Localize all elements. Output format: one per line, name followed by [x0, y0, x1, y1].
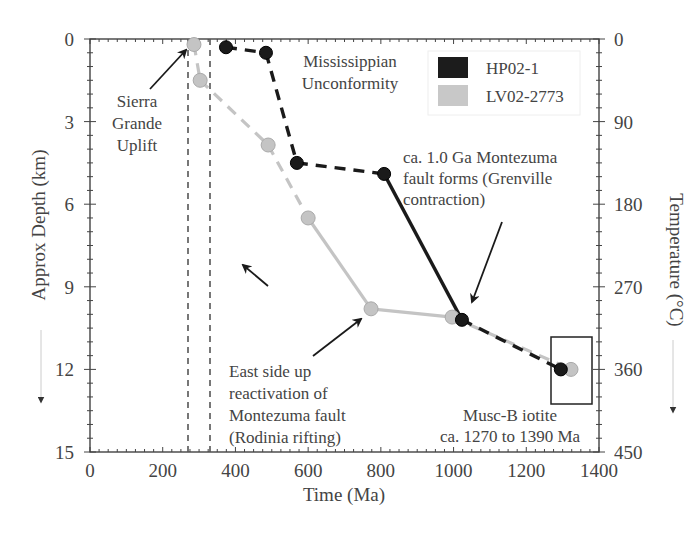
series-segment [371, 309, 452, 317]
data-point [554, 363, 567, 376]
x-tick-label: 0 [85, 460, 95, 481]
x-axis-title: Time (Ma) [303, 484, 385, 506]
exhumation-arrow [243, 265, 268, 286]
y2-tick-label: 90 [614, 112, 633, 133]
chart-root: 03691215 090180270360450 020040060080010… [0, 0, 700, 549]
data-point [193, 73, 207, 87]
reference-lines [188, 39, 210, 452]
legend-swatch-hp02-1 [438, 57, 468, 78]
x-tick-labels: 0200400600800100012001400 [85, 460, 618, 481]
annotation-sierra-grande: Sierra Grande Uplift [112, 92, 162, 155]
legend-swatch-lv02-2773 [438, 85, 468, 106]
data-point [455, 313, 468, 326]
data-point [261, 138, 275, 152]
grenville-arrow [472, 222, 502, 302]
y-tick-label: 0 [65, 29, 75, 50]
y2-tick-label: 180 [614, 194, 643, 215]
data-point [259, 46, 272, 59]
series-segment [200, 80, 268, 145]
x-tick-label: 600 [294, 460, 323, 481]
east-side-up-arrow [313, 319, 361, 356]
y-tick-label: 12 [55, 359, 74, 380]
svg-text:ca. 1.0 Ga Montezuma: ca. 1.0 Ga Montezuma [403, 148, 558, 167]
legend-label-hp02-1: HP02-1 [486, 59, 539, 78]
x-tick-label: 400 [221, 460, 250, 481]
y2-tick-labels: 090180270360450 [614, 29, 643, 463]
series-segment [268, 145, 308, 218]
y-tick-label: 9 [65, 277, 75, 298]
svg-text:Sierra: Sierra [117, 92, 158, 111]
y-tick-label: 3 [65, 112, 75, 133]
data-point [364, 302, 378, 316]
y-tick-label: 6 [65, 194, 75, 215]
data-point [219, 41, 232, 54]
data-point [187, 38, 201, 52]
x-tick-label: 1200 [507, 460, 545, 481]
series-segment [297, 163, 384, 174]
annotation-grenville: ca. 1.0 Ga Montezuma fault forms (Grenvi… [403, 148, 558, 209]
series-segment [308, 218, 371, 309]
legend-label-lv02-2773: LV02-2773 [486, 87, 564, 106]
svg-text:reactivation of: reactivation of [229, 384, 328, 403]
y2-axis-title: Temperature (°C) [665, 193, 687, 326]
data-point [301, 211, 315, 225]
svg-text:ca. 1270 to 1390 Ma: ca. 1270 to 1390 Ma [440, 427, 581, 446]
y-tick-labels: 03691215 [55, 29, 74, 463]
svg-text:Montezuma fault: Montezuma fault [229, 406, 346, 425]
annotation-mississippian: Mississippian Unconformity [302, 52, 399, 93]
y2-tick-label: 270 [614, 277, 643, 298]
svg-text:Mississippian: Mississippian [303, 52, 397, 71]
annotation-musc-biotite: Musc-B iotite ca. 1270 to 1390 Ma [440, 406, 581, 446]
legend: HP02-1 LV02-2773 [428, 51, 580, 115]
x-tick-label: 200 [148, 460, 177, 481]
y-tick-label: 15 [55, 442, 74, 463]
svg-text:contraction): contraction) [403, 190, 485, 209]
y-axis-title: Approx Depth (km) [28, 150, 50, 301]
x-tick-label: 800 [367, 460, 396, 481]
svg-text:fault forms (Grenville: fault forms (Grenville [403, 169, 552, 188]
x-tick-label: 1400 [580, 460, 618, 481]
y2-tick-label: 360 [614, 359, 643, 380]
svg-text:Grande: Grande [112, 114, 162, 133]
y2-tick-label: 0 [614, 29, 624, 50]
svg-text:Unconformity: Unconformity [302, 74, 399, 93]
y2-tick-label: 450 [614, 442, 643, 463]
data-point [290, 156, 303, 169]
svg-text:East side up: East side up [229, 362, 311, 381]
sierra-grande-arrow [150, 50, 186, 89]
svg-text:(Rodinia rifting): (Rodinia rifting) [229, 428, 341, 447]
svg-text:Musc-B iotite: Musc-B iotite [463, 406, 557, 425]
data-point [378, 167, 391, 180]
svg-text:Uplift: Uplift [117, 136, 158, 155]
annotation-east-side-up: East side up reactivation of Montezuma f… [229, 362, 346, 447]
x-tick-label: 1000 [435, 460, 473, 481]
